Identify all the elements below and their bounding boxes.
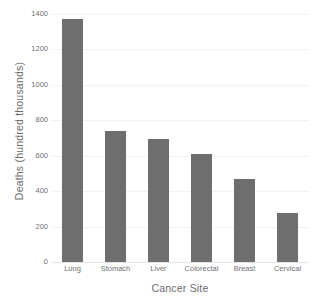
y-axis-tick-labels: 0200400600800100012001400 [24, 0, 48, 307]
x-tick-label: Lung [51, 264, 94, 274]
plot-area [51, 14, 309, 262]
gridline [51, 262, 309, 263]
x-tick-label: Cervical [266, 264, 309, 274]
bar-slot [180, 14, 223, 262]
x-tick-label: Liver [137, 264, 180, 274]
x-axis-title: Cancer Site [51, 282, 309, 294]
bar[interactable] [105, 131, 126, 262]
bar[interactable] [277, 213, 298, 262]
bar[interactable] [234, 179, 255, 262]
bar[interactable] [148, 139, 169, 262]
bar-slot [51, 14, 94, 262]
x-tick-label: Colorectal [180, 264, 223, 274]
bar-chart-figure: Deaths (hundred thousands) 0200400600800… [0, 0, 315, 307]
bars-layer [51, 14, 309, 262]
y-tick-label: 1000 [24, 81, 48, 89]
x-tick-label: Breast [223, 264, 266, 274]
y-tick-label: 400 [24, 187, 48, 195]
y-tick-label: 1400 [24, 10, 48, 18]
bar-slot [94, 14, 137, 262]
x-axis-tick-labels: LungStomachLiverColorectalBreastCervical [51, 264, 309, 278]
y-tick-label: 800 [24, 116, 48, 124]
bar-slot [266, 14, 309, 262]
y-tick-label: 200 [24, 223, 48, 231]
y-tick-label: 600 [24, 152, 48, 160]
bar-slot [137, 14, 180, 262]
x-tick-label: Stomach [94, 264, 137, 274]
bar-slot [223, 14, 266, 262]
bar[interactable] [62, 19, 83, 262]
y-tick-label: 0 [24, 258, 48, 266]
bar[interactable] [191, 154, 212, 262]
y-tick-label: 1200 [24, 45, 48, 53]
